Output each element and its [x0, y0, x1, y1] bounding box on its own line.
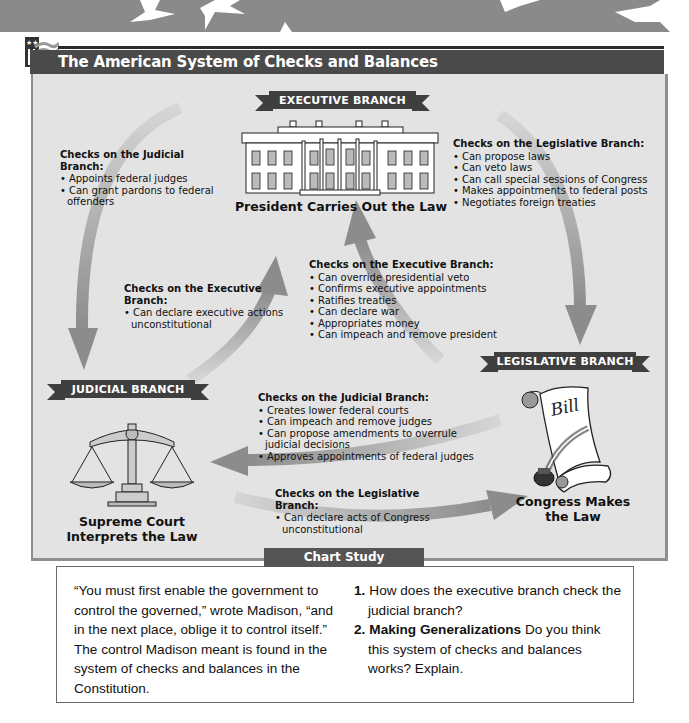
check-heading: Checks on the Judicial Branch: [258, 392, 478, 404]
judicial-caption-line2: Interprets the Law [62, 529, 202, 544]
check-item: Confirms executive appointments [309, 283, 509, 295]
question-2: 2.Making Generalizations Do you think th… [354, 620, 624, 679]
check-heading: Checks on the Judicial Branch: [60, 149, 230, 172]
legislative-caption-line1: Congress Makes [508, 494, 638, 509]
check-item: Can veto laws [453, 162, 653, 174]
check-item: Can declare war [309, 306, 509, 318]
check-heading: Checks on the Legislative Branch: [453, 138, 653, 150]
judicial-branch-ribbon: JUDICIAL BRANCH [47, 380, 209, 402]
check-item: Makes appointments to federal posts [453, 185, 653, 197]
judicial-branch-label: JUDICIAL BRANCH [47, 383, 209, 396]
white-house-icon [238, 117, 443, 197]
chart-study-header: Chart Study [264, 548, 424, 567]
check-item: Can override presidential veto [309, 272, 509, 284]
check-item: Can declare acts of Congress unconstitut… [275, 512, 465, 535]
check-item: Ratifies treaties [309, 295, 509, 307]
check-heading: Checks on the Executive Branch: [124, 283, 284, 306]
chart-study-box: “You must first enable the government to… [56, 566, 634, 703]
check-item: Approves appointments of federal judges [258, 451, 478, 463]
check-heading: Checks on the Legislative Branch: [275, 488, 465, 511]
bill-scroll-icon: Bill [518, 382, 618, 494]
check-item: Can propose laws [453, 151, 653, 163]
check-item: Appoints federal judges [60, 173, 230, 185]
executive-caption: President Carries Out the Law [230, 199, 452, 214]
check-item: Can impeach and remove judges [258, 416, 478, 428]
judicial-checks-on-legislative: Checks on the Legislative Branch: Can de… [275, 488, 465, 535]
scales-of-justice-icon [70, 420, 195, 510]
chart-study-questions: 1.How does the executive branch check th… [354, 581, 624, 679]
executive-branch-ribbon: EXECUTIVE BRANCH [255, 91, 430, 113]
legislative-branch-ribbon: LEGISLATIVE BRANCH [480, 352, 650, 374]
check-item: Can declare executive actions unconstitu… [124, 307, 284, 330]
check-item: Appropriates money [309, 318, 509, 330]
check-item: Can propose amendments to overrule judic… [258, 428, 478, 451]
legislative-checks-on-executive: Checks on the Executive Branch: Can over… [309, 259, 509, 341]
judicial-checks-on-executive: Checks on the Executive Branch: Can decl… [124, 283, 284, 330]
executive-branch-label: EXECUTIVE BRANCH [255, 94, 430, 107]
legislative-checks-on-judicial: Checks on the Judicial Branch: Creates l… [258, 392, 478, 462]
check-heading: Checks on the Executive Branch: [309, 259, 509, 271]
exec-checks-on-judicial: Checks on the Judicial Branch: Appoints … [60, 149, 230, 208]
judicial-caption: Supreme Court Interprets the Law [62, 514, 202, 544]
legislative-caption-line2: the Law [508, 509, 638, 524]
check-item: Negotiates foreign treaties [453, 197, 653, 209]
check-item: Can grant pardons to federal offenders [60, 185, 230, 208]
judicial-caption-line1: Supreme Court [62, 514, 202, 529]
exec-checks-on-legislative: Checks on the Legislative Branch: Can pr… [453, 138, 653, 208]
legislative-caption: Congress Makes the Law [508, 494, 638, 524]
check-item: Creates lower federal courts [258, 405, 478, 417]
check-item: Can impeach and remove president [309, 329, 509, 341]
check-item: Can call special sessions of Congress [453, 174, 653, 186]
legislative-branch-label: LEGISLATIVE BRANCH [480, 355, 650, 368]
madison-quote: “You must first enable the government to… [74, 581, 344, 698]
question-1: 1.How does the executive branch check th… [354, 581, 624, 620]
